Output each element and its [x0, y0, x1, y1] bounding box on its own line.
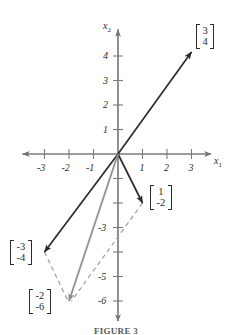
bracket-left	[196, 24, 200, 49]
vector-label-1-neg2: 1 -2	[150, 185, 172, 210]
y-tick-1: 1	[103, 125, 108, 135]
vector-label-1-neg2-bottom: -2	[157, 198, 166, 210]
y-tick-neg5: -5	[98, 272, 106, 282]
vector-3-4	[118, 52, 192, 154]
dashed-parallelogram	[45, 203, 143, 301]
bracket-right	[47, 289, 51, 314]
x-axis-label: x1	[214, 156, 222, 169]
vector-label-neg2-neg6: -2 -6	[29, 289, 51, 314]
vector-label-3-4-bottom: 4	[203, 37, 208, 49]
vector-label-neg3-neg4-bottom: -4	[17, 253, 26, 265]
vector-neg3-neg4	[45, 154, 119, 252]
dashed-edge-v-to-sum	[72, 203, 143, 301]
y-tick-3: 3	[103, 76, 108, 86]
y-tick-neg6: -6	[98, 296, 106, 306]
bracket-right	[28, 240, 32, 265]
vector-plot	[0, 0, 232, 335]
vector-label-1-neg2-top: 1	[158, 186, 163, 198]
x-tick-neg2: -2	[62, 163, 70, 173]
vector-label-neg3-neg4: -3 -4	[10, 240, 32, 265]
x-tick-1: 1	[140, 163, 145, 173]
axis-lines	[22, 29, 211, 321]
bracket-left	[150, 185, 154, 210]
vector-neg2-neg6	[69, 154, 118, 301]
vector-label-neg2-neg6-bottom: -6	[36, 302, 45, 314]
y-tick-neg3: -3	[98, 223, 106, 233]
vector-label-3-4: 3 4	[196, 24, 214, 49]
x-tick-3: 3	[189, 163, 194, 173]
vector-label-neg2-neg6-top: -2	[36, 290, 45, 302]
x-tick-neg3: -3	[37, 163, 45, 173]
vector-label-neg3-neg4-top: -3	[17, 241, 26, 253]
bracket-left	[10, 240, 14, 265]
x-tick-2: 2	[164, 163, 169, 173]
figure-caption: FIGURE 3	[0, 326, 232, 335]
bracket-right	[168, 185, 172, 210]
y-tick-4: 4	[103, 51, 108, 61]
bracket-left	[29, 289, 33, 314]
vector-label-3-4-top: 3	[203, 25, 208, 37]
figure-container: x2 x1 -3 -2 -1 1 2 3 4 3 2 1 -3 -5 -6 3 …	[0, 0, 232, 335]
y-axis-label: x2	[103, 21, 111, 34]
bracket-right	[210, 24, 214, 49]
x-tick-neg1: -1	[86, 163, 94, 173]
y-tick-2: 2	[103, 100, 108, 110]
